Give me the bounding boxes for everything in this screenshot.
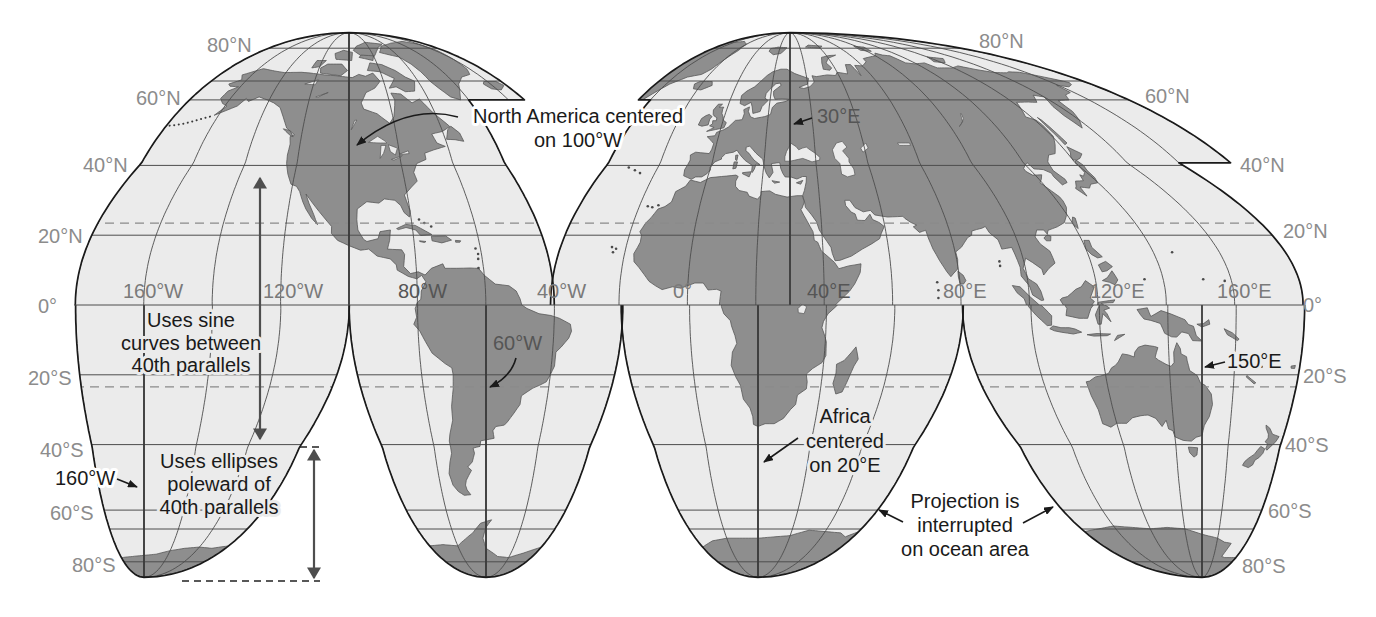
aleutian-islands-dotted-line [98,117,136,126]
island-dot [477,258,480,261]
island-dot [530,166,533,169]
puerto-rico-landmass [455,240,460,242]
latitude-label: 80°N [979,30,1024,52]
severnaya-zemlya-landmass [535,46,574,51]
island-dot [628,166,631,169]
island-dot [1202,278,1205,281]
corsica-landmass [572,155,580,161]
meridian-30e-callout: 30°E [817,105,861,127]
iceland-landmass [550,82,570,90]
latitude-label: 40°N [1240,154,1285,176]
latitude-label: 80°S [1242,555,1286,577]
latitude-label: 0° [1303,294,1322,316]
fiji-landmass [1291,365,1295,368]
island-dot [578,172,581,175]
note-line: North America centered [473,105,683,127]
note-line: 40th parallels [132,354,251,376]
latitude-label: 80°S [72,554,116,576]
ellipses-note: Uses ellipses poleward of 40th parallels [160,450,279,518]
new-siberian-islands-landmass [648,57,684,63]
tasmania-landmass [971,447,992,457]
sardinia-landmass [579,162,593,169]
latitude-label: 80°N [207,34,252,56]
latitude-label: 20°N [1283,220,1328,242]
note-line: Africa [819,405,871,427]
island-dot [474,247,477,250]
devon-island-landmass [617,55,636,60]
queen-elizabeth-islands-landmass [589,50,626,60]
island-dot [634,169,637,172]
note-line: interrupted [917,514,1013,536]
latitude-label: 60°S [1268,500,1312,522]
svalbard-landmass [462,47,491,55]
latitude-label: 20°S [1303,365,1347,387]
interruption-arrow-left [879,510,903,522]
severnaya-zemlya-landmass [1144,46,1159,51]
island-dot [540,169,543,172]
goode-homolosine-figure: 80°N 60°N 40°N 20°N 0° 20°S 40°S 60°S 80… [0,0,1376,617]
lake-ontario [513,151,524,155]
ellesmere-island-landmass [624,42,687,57]
latitude-label: 60°N [136,87,181,109]
longitude-label: 0° [673,280,692,302]
franz-josef-land-landmass [585,45,606,48]
note-line: on 100°W [534,129,622,151]
meridian-150e-callout: 150°E [1227,350,1282,372]
victoria-island-landmass [539,64,582,76]
meridian-160w-callout: 160°W [55,467,115,489]
island-dot [430,225,433,228]
novaya-zemlya-landmass [544,55,588,70]
island-dot [549,172,552,175]
island-dot [573,205,576,208]
tasmania-landmass [917,447,942,457]
queen-elizabeth-islands-landmass [608,50,647,60]
longitude-label: 160°E [1217,280,1272,302]
latitude-label: 60°S [50,502,94,524]
victoria-island-landmass [321,64,348,76]
island-dot [418,218,421,221]
franz-josef-land-landmass [484,45,509,48]
great-bear-lake [516,80,538,85]
franz-josef-land-landmass [1101,45,1121,48]
victoria-island-landmass [555,64,599,76]
baffin-island-landmass [592,63,638,92]
longitude-label: 120°E [1090,280,1145,302]
severnaya-zemlya-landmass [634,46,666,51]
note-line: poleward of [167,473,271,495]
longitude-label: 40°E [807,280,851,302]
note-line: Projection is [911,490,1020,512]
latitude-label: 40°N [83,154,128,176]
island-dot [561,166,564,169]
novaya-zemlya-landmass [1054,55,1104,70]
latitude-label: 40°S [40,439,84,461]
island-dot [936,281,939,284]
note-line: on ocean area [901,538,1030,560]
interruption-arrow-right [1023,507,1053,523]
lake-ontario [506,151,517,155]
latitude-label: 20°S [28,367,72,389]
svalbard-landmass [558,47,581,55]
island-dot [477,253,480,256]
latitude-label: 60°N [1145,85,1190,107]
island-dot [1171,251,1174,254]
note-line: Uses ellipses [160,450,278,472]
island-dot [998,260,1001,263]
banks-island-landmass [542,61,575,68]
longitude-label: 40°W [537,280,586,302]
meridian-60w-callout: 60°W [493,332,542,354]
banks-island-landmass [559,61,594,68]
svalbard-landmass [1043,47,1081,55]
island-dot [639,172,642,175]
island-dot [615,248,618,251]
devon-island-landmass [637,55,657,60]
note-line: 40th parallels [160,496,279,518]
new-zealand-south-landmass [945,446,1009,467]
flores-sumbawa-landmass [1087,334,1111,337]
latitude-label: 40°S [1285,434,1329,456]
island-dot [657,204,660,207]
note-line: Uses sine [147,309,235,331]
new-siberian-islands-landmass [518,57,562,63]
island-dot [570,169,573,172]
island-dot [647,205,650,208]
island-dot [611,246,614,249]
